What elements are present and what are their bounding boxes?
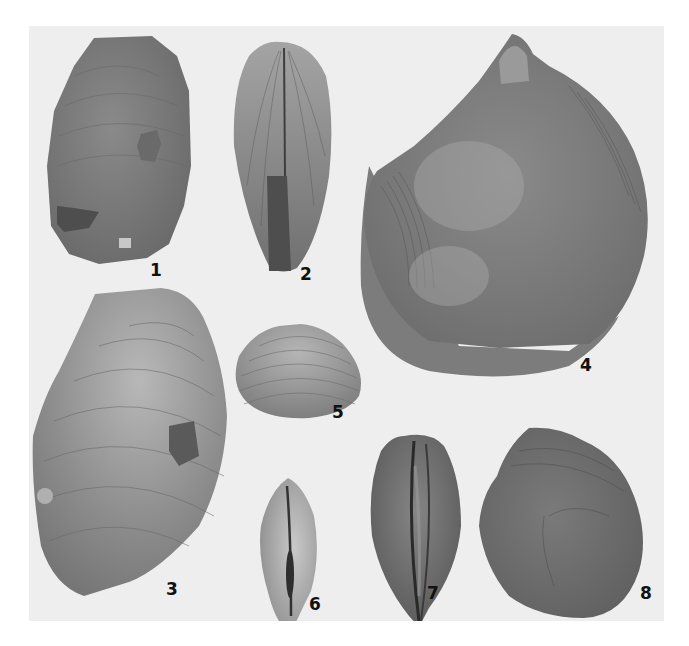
- figure-label-1: 1: [150, 262, 162, 279]
- specimen-4: [361, 34, 648, 376]
- specimen-7: [371, 435, 461, 621]
- figure-label-4: 4: [580, 357, 592, 374]
- specimen-2: [234, 42, 332, 272]
- figure-label-3: 3: [166, 581, 178, 598]
- figure-label-5: 5: [332, 404, 344, 421]
- figure-label-6: 6: [309, 596, 321, 613]
- figure-label-8: 8: [640, 585, 652, 602]
- specimen-1: [47, 36, 191, 264]
- fossil-plate: 1 2 3 4 5 6 7 8: [29, 26, 664, 621]
- figure-label-2: 2: [300, 266, 312, 283]
- specimen-3: [33, 288, 227, 596]
- figure-label-7: 7: [427, 585, 439, 602]
- specimen-8: [479, 428, 643, 618]
- specimens-illustration: [29, 26, 664, 621]
